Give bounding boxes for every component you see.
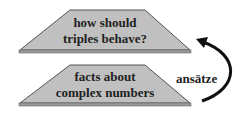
top-layer-line2: triples behave? bbox=[63, 31, 147, 46]
top-layer: how should triples behave? bbox=[19, 10, 191, 53]
arrow-label: ansätze bbox=[176, 71, 217, 86]
bottom-layer: facts about complex numbers bbox=[19, 65, 191, 106]
bottom-layer-line2: complex numbers bbox=[56, 85, 155, 100]
ansatze-arrow-icon bbox=[196, 37, 231, 101]
top-layer-line1: how should bbox=[73, 15, 137, 30]
bottom-layer-line1: facts about bbox=[74, 69, 136, 84]
diagram: how should triples behave? facts about c… bbox=[0, 0, 245, 114]
